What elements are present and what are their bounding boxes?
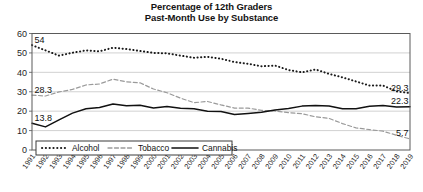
x-axis-tick-label: 2013 <box>317 152 334 171</box>
legend-label-alcohol[interactable]: Alcohol <box>72 143 100 153</box>
chart-plot-area: 0102030405060 19911992199319941995199619… <box>0 0 423 192</box>
legend-label-tobacco[interactable]: Tobacco <box>138 143 170 153</box>
chart-figure: Percentage of 12th Graders Past-Month Us… <box>0 0 423 192</box>
x-axis-tick-label: 2008 <box>250 152 267 171</box>
chart-legend[interactable]: AlcoholTobaccoCannabis <box>36 141 237 155</box>
data-value-label: 5.7 <box>396 128 409 138</box>
y-axis-ticks-group: 0102030405060 <box>17 29 32 156</box>
data-value-label: 54 <box>35 35 45 45</box>
x-axis-tick-label: 2012 <box>304 152 321 171</box>
y-axis-tick-label: 10 <box>17 126 27 136</box>
x-axis-tick-label: 2007 <box>236 152 253 171</box>
series-line-cannabis <box>32 104 410 127</box>
x-axis-tick-label: 2017 <box>371 152 388 171</box>
y-axis-tick-label: 20 <box>17 106 27 116</box>
data-value-label: 28.3 <box>35 85 53 95</box>
gridlines-group <box>32 34 410 131</box>
y-axis-tick-label: 0 <box>22 145 27 155</box>
data-value-label: 29.3 <box>391 83 409 93</box>
x-axis-tick-label: 2015 <box>344 152 361 171</box>
series-line-alcohol <box>32 45 410 93</box>
y-axis-tick-label: 50 <box>17 48 27 58</box>
x-axis-tick-label: 2010 <box>277 152 294 171</box>
x-axis-tick-label: 2016 <box>358 152 375 171</box>
x-axis-tick-label: 2014 <box>331 152 348 171</box>
y-axis-tick-label: 60 <box>17 29 27 39</box>
data-value-label: 22.3 <box>391 96 409 106</box>
x-axis-tick-label: 2019 <box>398 152 415 171</box>
legend-label-cannabis[interactable]: Cannabis <box>202 143 237 153</box>
x-axis-tick-label: 2009 <box>263 152 280 171</box>
x-axis-tick-label: 2011 <box>291 152 307 170</box>
y-axis-tick-label: 40 <box>17 68 27 78</box>
x-axis-tick-label: 2018 <box>385 152 402 171</box>
y-axis-tick-label: 30 <box>17 87 27 97</box>
data-value-label: 13.8 <box>35 113 53 123</box>
